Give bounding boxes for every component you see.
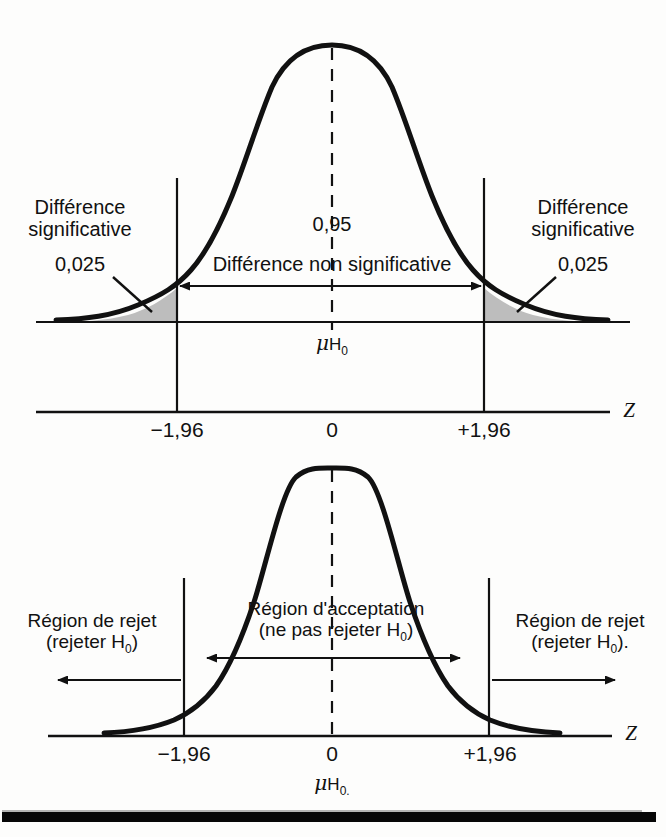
top-mean-marker: μH0 bbox=[292, 332, 372, 358]
bottom-right-region-line2-end: ). bbox=[617, 631, 629, 652]
bottom-mu-symbol: μ bbox=[314, 771, 327, 795]
top-tick-center-value: 0 bbox=[326, 418, 338, 441]
bottom-mu-subscript-h: H bbox=[327, 775, 339, 794]
bottom-mu-trailing-dot: . bbox=[346, 784, 349, 798]
bottom-right-region-line1: Région de rejet bbox=[494, 610, 666, 631]
bottom-axis-label-z: Z bbox=[616, 722, 646, 746]
top-tick-right: +1,96 bbox=[434, 418, 534, 442]
bottom-center-region-line2-text: (ne pas rejeter H bbox=[259, 619, 401, 640]
top-tick-right-value: +1,96 bbox=[457, 418, 510, 441]
top-tick-center: 0 bbox=[292, 418, 372, 442]
top-tick-left: −1,96 bbox=[127, 418, 227, 442]
top-center-area-value: 0,95 bbox=[313, 213, 352, 235]
statistics-figure: Différence significative 0,025 0,95 Diff… bbox=[0, 0, 666, 837]
top-left-alpha-value: 0,025 bbox=[55, 253, 105, 275]
bottom-mean-marker: μH0. bbox=[292, 772, 372, 798]
top-center-area-label: 0,95 bbox=[272, 213, 392, 235]
top-tick-left-value: −1,96 bbox=[150, 418, 203, 441]
bottom-left-region-line2: (rejeter H0) bbox=[6, 631, 178, 656]
bottom-left-region-line2-sub: 0 bbox=[125, 642, 132, 656]
bottom-center-region-line2: (ne pas rejeter H0) bbox=[190, 619, 482, 644]
bottom-tick-left-value: −1,96 bbox=[157, 742, 210, 765]
top-center-span-text: Différence non significative bbox=[213, 253, 452, 275]
bottom-axis-label-z-text: Z bbox=[625, 721, 637, 745]
top-axis-label-z-text: Z bbox=[623, 398, 635, 422]
top-mu-subscript-zero: 0 bbox=[341, 344, 348, 358]
bottom-left-region-line1: Région de rejet bbox=[6, 610, 178, 631]
top-axis-label-z: Z bbox=[614, 399, 644, 423]
bottom-right-region-line2-text: (rejeter H bbox=[531, 631, 610, 652]
bottom-tick-right: +1,96 bbox=[440, 742, 540, 766]
bottom-tick-left: −1,96 bbox=[134, 742, 234, 766]
bottom-tick-right-value: +1,96 bbox=[463, 742, 516, 765]
top-mu-subscript-h: H bbox=[329, 335, 341, 354]
top-left-alpha-label: 0,025 bbox=[14, 253, 146, 275]
top-left-region-line1: Différence bbox=[14, 196, 146, 218]
top-right-alpha-value: 0,025 bbox=[558, 253, 608, 275]
bottom-left-region-label: Région de rejet (rejeter H0) bbox=[6, 610, 178, 657]
bottom-right-region-line2: (rejeter H0). bbox=[494, 631, 666, 656]
bottom-center-region-line2-sub: 0 bbox=[400, 630, 407, 644]
page-bottom-rule bbox=[2, 812, 656, 822]
bottom-tick-center-value: 0 bbox=[326, 742, 338, 765]
top-right-region-line1: Différence bbox=[512, 196, 654, 218]
bottom-center-region-line2-end: ) bbox=[407, 619, 413, 640]
top-mu-symbol: μ bbox=[316, 331, 329, 355]
bottom-tick-center: 0 bbox=[292, 742, 372, 766]
top-right-region-label: Différence significative bbox=[512, 196, 654, 241]
top-right-alpha-label: 0,025 bbox=[512, 253, 654, 275]
top-left-region-label: Différence significative bbox=[14, 196, 146, 241]
bottom-center-region-label: Région d'acceptation (ne pas rejeter H0) bbox=[190, 598, 482, 645]
bottom-left-region-line2-text: (rejeter H bbox=[46, 631, 125, 652]
bottom-right-region-label: Région de rejet (rejeter H0). bbox=[494, 610, 666, 657]
top-center-span-label: Différence non significative bbox=[186, 253, 478, 275]
top-right-region-line2: significative bbox=[512, 218, 654, 240]
bottom-left-region-line2-end: ) bbox=[132, 631, 138, 652]
bottom-center-region-line1: Région d'acceptation bbox=[190, 598, 482, 619]
top-left-region-line2: significative bbox=[14, 218, 146, 240]
